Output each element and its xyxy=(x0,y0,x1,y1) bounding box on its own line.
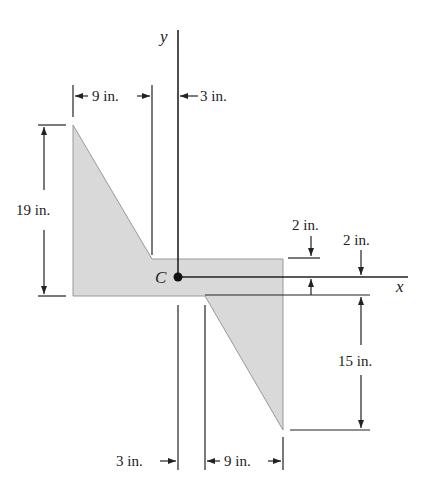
axes xyxy=(178,30,408,277)
dim-left-height: 19 in. xyxy=(16,202,50,218)
dim-top-offset: 3 in. xyxy=(200,88,227,104)
dim-bottom-offset: 3 in. xyxy=(116,453,143,469)
dim-right-height: 15 in. xyxy=(338,353,372,369)
x-axis-label: x xyxy=(395,277,404,296)
dim-flange-bottom: 2 in. xyxy=(343,232,370,248)
centroid-label: C xyxy=(155,268,167,287)
dim-bottom-right-width: 9 in. xyxy=(224,453,251,469)
dim-top-left-width: 9 in. xyxy=(92,88,119,104)
dim-flange-top: 2 in. xyxy=(292,217,319,233)
cross-section-diagram: y x C 9 in. 3 in. 19 in. 2 in. 2 in. 15 … xyxy=(0,0,434,489)
centroid-dot xyxy=(174,273,183,282)
y-axis-label: y xyxy=(158,27,168,46)
